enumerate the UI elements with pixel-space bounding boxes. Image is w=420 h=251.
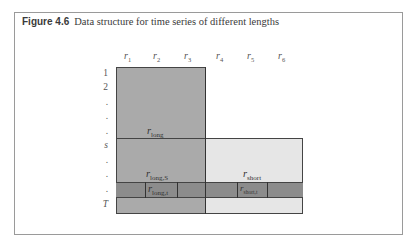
label-r-long-s: rlong,S — [146, 168, 168, 182]
label-r-long-t: rlong,t — [148, 183, 168, 197]
cell-divider — [177, 182, 178, 198]
cell-divider — [267, 182, 268, 198]
row-label-dot: . — [94, 97, 108, 107]
label-r-short-t: rshort,t — [240, 183, 257, 195]
column-header-r2: r2 — [153, 50, 160, 63]
column-header-r3: r3 — [184, 50, 191, 63]
cell-divider — [145, 182, 146, 198]
row-label-dot: . — [94, 169, 108, 179]
row-label-1: 1 — [94, 68, 108, 78]
row-label-s: s — [94, 140, 108, 150]
long-short-divider — [205, 67, 206, 214]
figure-number: Figure 4.6 — [22, 16, 69, 27]
figure-caption: Figure 4.6Data structure for time series… — [22, 16, 279, 27]
column-header-r1: r1 — [124, 50, 131, 63]
figure-title: Data structure for time series of differ… — [74, 16, 279, 27]
label-r-short: rshort — [243, 168, 261, 182]
row-label-dot: . — [94, 111, 108, 121]
label-r-long: rlong — [147, 125, 164, 139]
row-label-dot: . — [94, 155, 108, 165]
column-header-r4: r4 — [216, 50, 223, 63]
row-label-2: 2 — [94, 82, 108, 92]
cell-divider — [237, 182, 238, 198]
row-label-dot: . — [94, 184, 108, 194]
row-label-T: T — [94, 199, 108, 209]
row-label-dot: . — [94, 126, 108, 136]
column-header-r6: r6 — [278, 50, 285, 63]
column-header-r5: r5 — [247, 50, 254, 63]
row-s-divider — [116, 138, 303, 139]
